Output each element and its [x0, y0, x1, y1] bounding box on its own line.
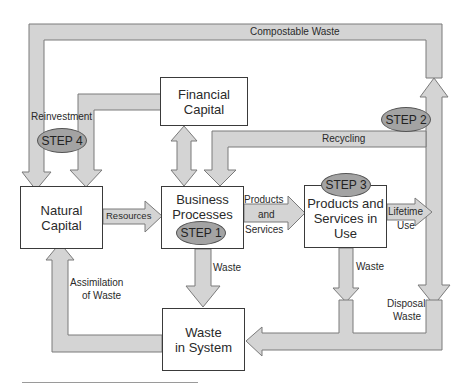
step1-badge: STEP 1 — [176, 221, 226, 245]
recycling-label: Recycling — [322, 133, 365, 145]
step3-badge: STEP 3 — [321, 173, 371, 197]
natural-capital-box: Natural Capital — [20, 186, 103, 249]
step2-badge: STEP 2 — [381, 107, 431, 132]
disposal-waste-label-1: Disposal — [387, 298, 425, 310]
compostable-waste-label: Compostable Waste — [250, 26, 340, 38]
financial-capital-label-1: Financial — [178, 87, 230, 102]
business-processes-label-1: Business — [176, 192, 229, 207]
products-waste-label: Waste — [356, 261, 384, 273]
products-flow-label-2: and — [258, 209, 275, 221]
products-flow-label-3: Services — [245, 224, 283, 236]
business-waste-label: Waste — [213, 262, 241, 274]
financial-business-arrow — [171, 126, 197, 186]
products-services-label-3: Use — [334, 226, 357, 241]
products-waste-arrow — [333, 248, 359, 302]
lifetime-use-label-1: Lifetime — [388, 206, 423, 218]
disposal-waste-label-2: Waste — [393, 311, 421, 323]
lifetime-use-label-2: Use — [397, 220, 415, 232]
assimilation-label-2: of Waste — [82, 290, 121, 302]
financial-capital-label-2: Capital — [184, 102, 224, 117]
footer-rule — [22, 382, 198, 383]
products-services-label-2: Services in — [314, 211, 378, 226]
products-flow-label-1: Products — [244, 194, 283, 206]
recycling-arrow — [204, 131, 426, 186]
financial-capital-box: Financial Capital — [160, 77, 248, 126]
products-services-label-1: Products and — [307, 196, 384, 211]
waste-system-label-2: in System — [175, 340, 232, 355]
natural-capital-label-2: Capital — [41, 218, 81, 233]
reinvestment-label: Reinvestment — [31, 111, 92, 123]
step4-badge: STEP 4 — [37, 128, 87, 153]
resources-label: Resources — [106, 210, 151, 222]
assimilation-label-1: Assimilation — [70, 277, 123, 289]
natural-capital-label-1: Natural — [41, 203, 83, 218]
business-waste-arrow — [186, 249, 220, 307]
waste-in-system-box: Waste in System — [162, 308, 245, 371]
waste-system-label-1: Waste — [185, 325, 221, 340]
business-processes-label-2: Processes — [172, 207, 233, 222]
